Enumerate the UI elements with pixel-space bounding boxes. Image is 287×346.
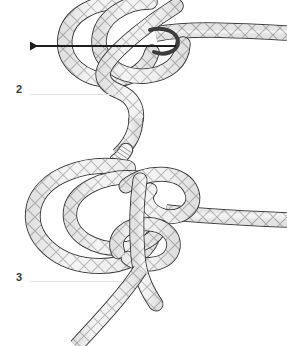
step-rule-3 bbox=[30, 281, 122, 282]
step-label-2: 2 bbox=[16, 84, 22, 95]
step-label-3: 3 bbox=[16, 272, 22, 283]
knot-illustration bbox=[0, 0, 287, 346]
step-rule-2 bbox=[30, 94, 122, 95]
illustration-canvas: 2 3 bbox=[0, 0, 287, 346]
rope-tail-descending bbox=[112, 118, 136, 164]
step-3-knot-drawing bbox=[33, 166, 287, 346]
step-2-knot-drawing bbox=[30, 2, 287, 164]
